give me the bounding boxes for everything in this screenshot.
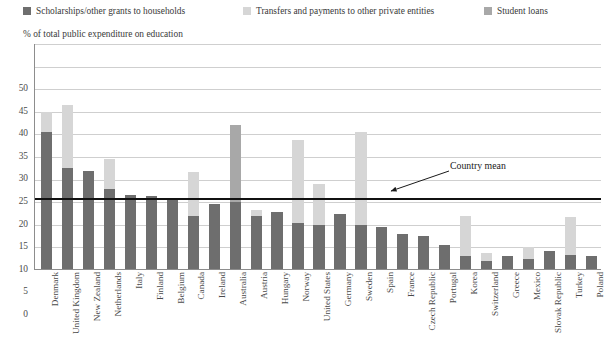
y-axis-tick: 50 [19, 83, 28, 93]
bar-segment [271, 212, 282, 270]
bar-segment [523, 247, 534, 259]
bar-column[interactable] [544, 251, 555, 270]
bar-segment [104, 159, 115, 188]
bar-column[interactable] [104, 159, 115, 270]
bar-column[interactable] [62, 105, 73, 270]
x-axis-tick: Spain [385, 272, 395, 293]
country-mean-label: Country mean [450, 160, 506, 171]
bar-segment [460, 216, 471, 257]
bar-segment [418, 236, 429, 270]
bar-column[interactable] [83, 171, 94, 270]
x-axis-tick: Denmark [50, 272, 60, 306]
x-axis-tick: Poland [595, 272, 605, 298]
bar-column[interactable] [439, 245, 450, 270]
x-axis-tick: United Kingdom [71, 272, 81, 334]
x-axis-tick: Austria [259, 272, 269, 299]
bar-segment [83, 171, 94, 270]
bar-segment [188, 216, 199, 270]
x-axis-tick: Hungary [280, 272, 290, 304]
bar-segment [251, 216, 262, 270]
bar-segment [439, 245, 450, 270]
country-mean-line [35, 198, 601, 200]
x-axis-tick: Switzerland [490, 272, 500, 316]
bar-segment [397, 234, 408, 270]
bar-segment [62, 105, 73, 168]
y-axis-tick-labels: 05101520253035404550 [0, 44, 32, 270]
bar-segment [125, 195, 136, 270]
bar-segment [565, 217, 576, 255]
x-axis-tick: Ireland [217, 272, 227, 298]
y-axis-tick: 45 [19, 106, 28, 116]
y-axis-tick: 35 [19, 151, 28, 161]
bar-segment [62, 168, 73, 270]
bar-column[interactable] [376, 227, 387, 270]
bar-segment [481, 253, 492, 261]
x-axis-tick: France [406, 272, 416, 297]
bar-column[interactable] [355, 132, 366, 270]
y-axis-tick: 30 [19, 173, 28, 183]
x-axis-tick: Netherlands [113, 272, 123, 316]
bar-column[interactable] [502, 256, 513, 270]
y-axis-tick: 15 [19, 241, 28, 251]
square-swatch-icon [23, 7, 31, 15]
bar-column[interactable] [41, 112, 52, 270]
bar-column[interactable] [292, 140, 303, 270]
bar-column[interactable] [313, 184, 324, 270]
bar-segment [376, 227, 387, 270]
y-axis-tick: 5 [23, 286, 28, 296]
bar-segment [355, 132, 366, 225]
bar-column[interactable] [460, 216, 471, 270]
legend-label: Transfers and payments to other private … [256, 4, 434, 18]
x-axis-tick: Finland [155, 272, 165, 300]
x-axis-tick: Canada [196, 272, 206, 300]
x-axis-tick: Australia [238, 272, 248, 306]
bar-column[interactable] [418, 236, 429, 270]
bar-segment [502, 256, 513, 270]
bar-column[interactable] [146, 196, 157, 270]
bar-column[interactable] [586, 256, 597, 270]
x-axis-tick: Slovak Republic [553, 272, 563, 333]
bar-column[interactable] [481, 253, 492, 270]
bar-column[interactable] [334, 214, 345, 270]
legend-item-transfers: Transfers and payments to other private … [243, 4, 434, 18]
x-axis-tick: Turkey [574, 272, 584, 298]
bar-segment [41, 112, 52, 132]
bar-column[interactable] [271, 212, 282, 270]
chart-legend: Scholarships/other grants to households … [0, 4, 607, 22]
x-axis-tick: New Zealand [92, 272, 102, 321]
chart-root: Scholarships/other grants to households … [0, 0, 607, 357]
legend-item-student-loans: Student loans [484, 4, 548, 18]
bar-column[interactable] [209, 204, 220, 270]
bar-segment [230, 125, 241, 202]
bar-segment [292, 223, 303, 270]
y-axis-tick: 25 [19, 196, 28, 206]
x-axis-line [35, 269, 601, 270]
x-axis-tick: Norway [301, 272, 311, 302]
bar-segment [565, 255, 576, 270]
x-axis-tick: Portugal [448, 272, 458, 303]
bar-segment [104, 189, 115, 270]
bar-column[interactable] [397, 234, 408, 270]
bar-series-layer [35, 44, 601, 270]
bar-column[interactable] [167, 198, 178, 270]
bar-segment [230, 202, 241, 270]
legend-label: Scholarships/other grants to households [36, 4, 185, 18]
x-axis-tick: Czech Republic [427, 272, 437, 330]
x-axis-tick: United States [322, 272, 332, 321]
bar-column[interactable] [523, 247, 534, 271]
country-mean-arrow-icon [383, 168, 453, 198]
x-axis-tick-labels: DenmarkUnited KingdomNew ZealandNetherla… [34, 272, 600, 357]
bar-segment [313, 225, 324, 270]
y-axis-tick: 40 [19, 128, 28, 138]
bar-column[interactable] [565, 217, 576, 270]
bar-column[interactable] [125, 195, 136, 270]
bar-column[interactable] [251, 210, 262, 270]
bar-segment [334, 214, 345, 270]
bar-segment [209, 204, 220, 270]
x-axis-tick: Sweden [364, 272, 374, 301]
bar-column[interactable] [188, 172, 199, 270]
plot-area [34, 44, 600, 270]
bar-segment [355, 225, 366, 270]
x-axis-tick: Greece [511, 272, 521, 298]
bar-segment [41, 132, 52, 270]
